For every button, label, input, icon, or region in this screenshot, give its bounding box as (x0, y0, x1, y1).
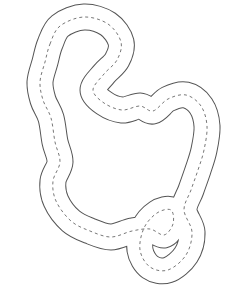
track-diagram (0, 0, 252, 285)
track-outline-figure (0, 0, 252, 285)
